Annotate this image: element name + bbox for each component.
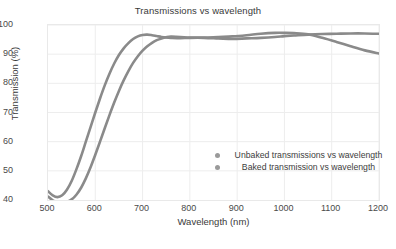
legend-label: Unbaked transmissions vs wavelength [224, 150, 393, 161]
x-tick-label: 1100 [309, 203, 353, 213]
y-tick-label: 50 [0, 165, 13, 175]
x-tick-label: 900 [214, 203, 258, 213]
x-tick-label: 800 [167, 203, 211, 213]
y-tick-label: 40 [0, 194, 13, 204]
chart-title: Transmissions vs wavelength [0, 5, 396, 16]
x-tick-label: 1000 [261, 203, 305, 213]
x-tick-label: 500 [25, 203, 69, 213]
y-axis-label: Transmission (%) [9, 19, 20, 149]
x-tick-label: 1200 [356, 203, 396, 213]
x-tick-label: 700 [120, 203, 164, 213]
x-axis-label: Wavelength (nm) [47, 216, 380, 227]
legend-item[interactable]: Baked transmission vs wavelength [215, 162, 393, 173]
transmission-chart: Transmissions vs wavelength 405060708090… [0, 0, 396, 249]
legend-marker-icon [215, 153, 220, 158]
x-tick-label: 600 [72, 203, 116, 213]
plot-area [47, 24, 380, 201]
legend-marker-icon [215, 165, 220, 170]
chart-legend: Unbaked transmissions vs wavelength Bake… [215, 150, 393, 173]
series-line [48, 33, 379, 200]
series-lines [48, 25, 379, 200]
legend-item[interactable]: Unbaked transmissions vs wavelength [215, 150, 393, 161]
legend-label: Baked transmission vs wavelength [224, 162, 393, 173]
